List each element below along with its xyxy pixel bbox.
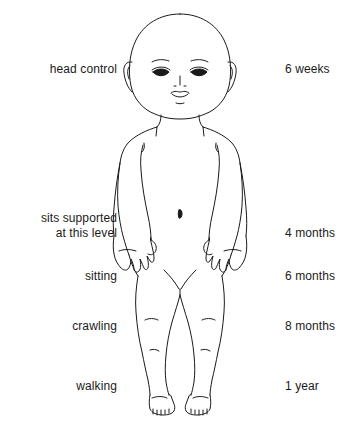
left-eye	[153, 69, 169, 76]
navel	[178, 210, 182, 219]
left-leg-inner	[165, 295, 180, 395]
milestone-label-head-control: head control	[50, 62, 117, 77]
milestone-label-crawling: crawling	[72, 319, 117, 334]
milestone-age-head-control: 6 weeks	[285, 62, 330, 77]
developmental-milestones-figure: head control sits supported at this leve…	[0, 0, 360, 422]
right-ankle-crease	[193, 397, 208, 399]
neck-left	[157, 115, 161, 127]
left-leg-outer	[136, 276, 150, 395]
right-calf-crease	[201, 349, 210, 351]
mouth-upper-lip	[171, 91, 189, 93]
right-leg-outer	[210, 276, 224, 395]
torso-outline	[118, 127, 243, 255]
right-knee-crease	[202, 319, 215, 321]
collar-left	[156, 127, 157, 136]
head-outline	[129, 14, 230, 119]
milestone-label-walking: walking	[76, 379, 117, 394]
right-arm-inner	[209, 145, 219, 240]
right-leg-inner	[180, 295, 195, 395]
left-arm-inner	[141, 145, 151, 240]
groin-left	[164, 270, 179, 289]
left-ankle-crease	[152, 397, 167, 399]
chin-crease	[176, 103, 184, 104]
right-eye	[191, 69, 207, 76]
milestone-age-walking: 1 year	[285, 379, 319, 394]
milestone-label-sitting: sitting	[85, 269, 117, 284]
left-eyebrow	[152, 60, 169, 62]
right-eyebrow	[191, 60, 208, 62]
neck-right	[199, 115, 203, 127]
mouth-lower-lip	[172, 94, 188, 97]
milestone-age-crawling: 8 months	[285, 319, 335, 334]
collar-right	[203, 127, 204, 136]
milestone-age-sitting: 6 months	[285, 269, 335, 284]
left-knee-crease	[145, 319, 158, 321]
milestone-label-sits-supported: sits supported at this level	[41, 211, 117, 241]
groin-right	[181, 270, 196, 289]
left-calf-crease	[150, 349, 159, 351]
milestone-age-sits-supported: 4 months	[285, 226, 335, 241]
